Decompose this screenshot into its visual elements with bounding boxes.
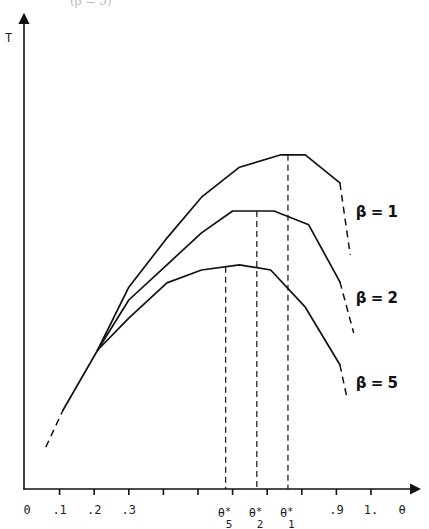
x-tick-label: .1 (52, 503, 66, 517)
curve-tail-beta-2 (340, 282, 354, 333)
common-start (63, 350, 98, 410)
series-label-beta-1: β = 1 (356, 203, 398, 221)
x-tick-label: 1. (364, 503, 378, 517)
optimum-label-theta-5: θ*5 (218, 508, 233, 529)
series-label-beta-5: β = 5 (356, 374, 398, 392)
curves (46, 155, 354, 447)
common-start-dashed (46, 410, 63, 447)
curve-beta-1 (98, 155, 340, 350)
y-axis-label: T (5, 31, 12, 45)
optimum-label-theta-2: θ*2 (249, 508, 264, 529)
optimum-guides (226, 155, 288, 489)
x-tick-label: .3 (122, 503, 136, 517)
x-tick-label: .9 (329, 503, 343, 517)
axes (23, 15, 419, 489)
x-tick-label: 0 (23, 503, 30, 517)
series-label-beta-2: β = 2 (356, 289, 398, 307)
line-chart (0, 0, 429, 529)
curve-tail-beta-1 (340, 183, 350, 255)
curve-tail-beta-5 (340, 365, 347, 397)
x-tick-label: .2 (87, 503, 101, 517)
x-tick-label: θ (399, 503, 406, 517)
x-ticks (60, 489, 371, 495)
optimum-label-theta-1: θ*1 (280, 508, 295, 529)
